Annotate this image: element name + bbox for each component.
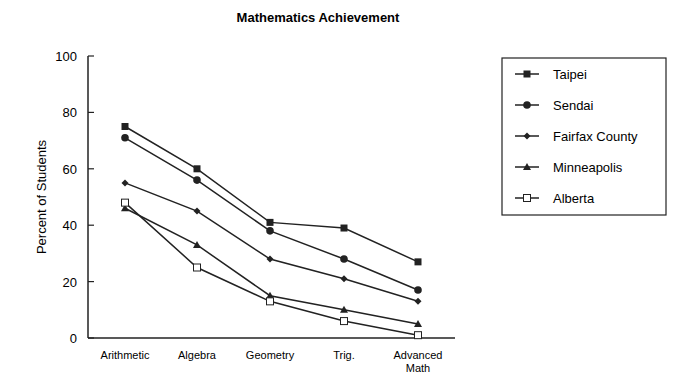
x-tick-label: Advanced <box>394 349 443 361</box>
legend-label: Sendai <box>553 98 594 113</box>
legend-label: Alberta <box>553 191 595 206</box>
legend-label: Fairfax County <box>553 129 638 144</box>
x-tick-label: Geometry <box>246 349 295 361</box>
square-filled-marker-icon <box>524 71 531 78</box>
legend: TaipeiSendaiFairfax CountyMinneapolisAlb… <box>502 58 666 215</box>
legend-label: Taipei <box>553 67 587 82</box>
chart-title: Mathematics Achievement <box>237 10 400 25</box>
series-sendai <box>121 134 422 294</box>
x-tick-label: Math <box>406 362 430 374</box>
y-tick-label: 60 <box>63 162 77 177</box>
series-taipei <box>122 123 422 265</box>
y-axis-label: Percent of Students <box>34 139 49 254</box>
y-tick-label: 100 <box>55 49 77 64</box>
series-group <box>121 123 422 339</box>
legend-label: Minneapolis <box>553 160 623 175</box>
y-tick-label: 40 <box>63 218 77 233</box>
x-tick-label: Algebra <box>178 349 217 361</box>
x-tick-label: Arithmetic <box>101 349 150 361</box>
y-tick-label: 80 <box>63 105 77 120</box>
circle-filled-marker-icon <box>523 101 531 109</box>
x-axis: ArithmeticAlgebraGeometryTrig.AdvancedMa… <box>88 338 455 374</box>
line-chart: Mathematics Achievement 020406080100 Per… <box>0 0 697 391</box>
y-tick-label: 0 <box>70 331 77 346</box>
y-axis: 020406080100 <box>55 49 94 346</box>
square-open-marker-icon <box>524 195 531 202</box>
y-tick-label: 20 <box>63 275 77 290</box>
x-tick-label: Trig. <box>333 349 355 361</box>
